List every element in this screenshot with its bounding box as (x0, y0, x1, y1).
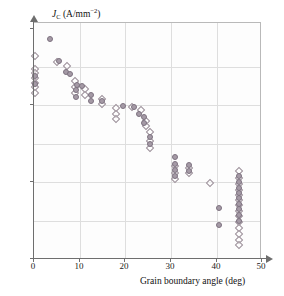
data-point-filled-circle-28 (236, 173, 242, 179)
x-tick-mark-2 (124, 259, 125, 262)
data-point-filled-circle-13 (120, 103, 126, 109)
x-tick-mark-0 (33, 259, 34, 262)
x-tick-mark-3 (170, 259, 171, 262)
data-point-open-diamond-18 (112, 115, 120, 123)
x-tick-mark-1 (79, 259, 80, 262)
data-point-filled-circle-5 (67, 71, 73, 77)
data-point-filled-circle-2 (47, 36, 53, 42)
data-point-filled-circle-3 (56, 58, 62, 64)
x-tick-label-20: 20 (120, 261, 129, 271)
x-tick-label-10: 10 (75, 261, 84, 271)
x-tick-mark-4 (216, 259, 217, 262)
data-point-filled-circle-9 (73, 94, 79, 100)
data-point-filled-circle-17 (141, 120, 147, 126)
gridline-horizontal-4 (34, 221, 260, 222)
data-point-filled-circle-14 (131, 104, 137, 110)
data-point-filled-circle-27 (216, 222, 222, 228)
gridline-vertical-2 (171, 23, 172, 259)
gridline-vertical-1 (125, 23, 126, 259)
data-point-filled-circle-10 (88, 92, 94, 98)
y-tick-mark-2 (30, 181, 33, 182)
y-tick-mark-0 (30, 28, 33, 29)
data-point-filled-circle-23 (172, 173, 178, 179)
y-axis-unit-open: (A/mm (61, 9, 91, 19)
plot-area (33, 22, 261, 259)
x-tick-label-50: 50 (257, 261, 266, 271)
data-point-filled-circle-8 (73, 87, 79, 93)
data-point-filled-circle-7 (79, 83, 85, 89)
data-point-filled-circle-11 (88, 98, 94, 104)
gridline-horizontal-1 (34, 105, 260, 106)
chart-figure: JC (A/mm−2) 108106104102 01020304050 Gra… (0, 0, 284, 296)
x-tick-mark-5 (261, 259, 262, 262)
x-tick-label-40: 40 (212, 261, 221, 271)
gridline-horizontal-3 (34, 182, 260, 183)
data-point-filled-circle-20 (172, 154, 178, 160)
x-tick-label-0: 0 (31, 261, 36, 271)
y-axis-title: JC (A/mm−2) (52, 7, 100, 19)
y-tick-mark-1 (30, 104, 33, 105)
y-axis-title-subscript: C (56, 13, 60, 20)
y-axis-line (33, 22, 34, 259)
data-point-filled-circle-18 (147, 134, 153, 140)
gridline-vertical-0 (80, 23, 81, 259)
x-tick-label-30: 30 (166, 261, 175, 271)
data-point-open-diamond-45 (235, 241, 243, 249)
data-point-filled-circle-25 (186, 168, 192, 174)
data-point-filled-circle-36 (236, 218, 242, 224)
data-point-filled-circle-12 (99, 98, 105, 104)
x-axis-line (33, 258, 267, 259)
data-point-filled-circle-26 (216, 205, 222, 211)
data-point-open-diamond-31 (205, 179, 213, 187)
y-axis-unit-close: ) (97, 9, 100, 19)
data-point-filled-circle-19 (147, 141, 153, 147)
x-axis-title: Grain boundary angle (deg) (140, 276, 245, 286)
